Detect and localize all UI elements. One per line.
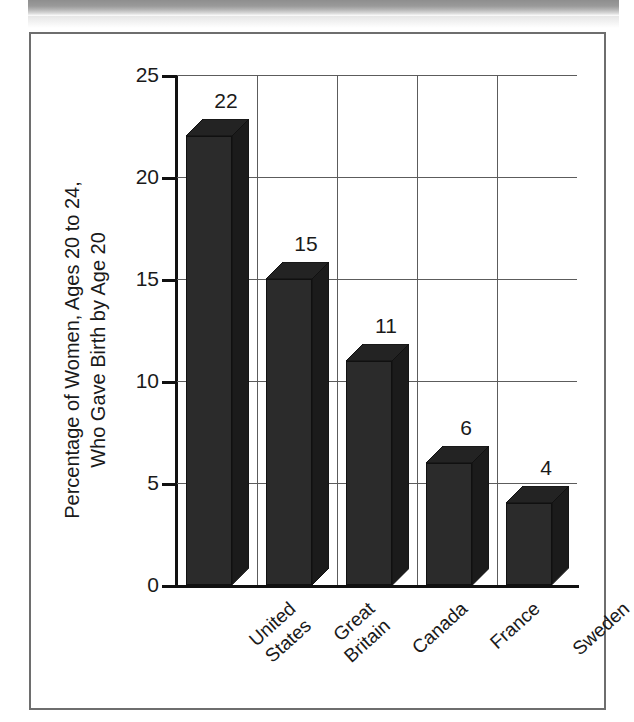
bar-3d-faces xyxy=(186,119,249,585)
bar-side-face xyxy=(472,446,489,585)
bar-side-face xyxy=(392,344,409,585)
x-axis-category-label: Sweden xyxy=(568,597,634,660)
gridline-vertical xyxy=(417,75,418,585)
bar xyxy=(186,119,249,585)
gridline-vertical xyxy=(337,75,338,585)
bar-side-face xyxy=(552,486,569,585)
y-axis-tick-label: 0 xyxy=(89,574,159,595)
bar-value-label: 11 xyxy=(363,315,409,336)
bar-3d-faces xyxy=(346,344,409,585)
y-axis-tick-label: 5 xyxy=(89,472,159,493)
y-axis-tick-labels: 0510152025 xyxy=(81,34,159,712)
figure-frame: Percentage of Women, Ages 20 to 24, Who … xyxy=(29,32,606,710)
bar-chart: Percentage of Women, Ages 20 to 24, Who … xyxy=(31,34,608,712)
scan-shadow-fade xyxy=(28,16,619,28)
bar-side-face xyxy=(312,262,329,585)
x-axis-line xyxy=(175,585,579,588)
bar xyxy=(506,486,569,585)
bar-value-label: 15 xyxy=(283,233,329,254)
gridline-vertical xyxy=(257,75,258,585)
scan-shadow-band xyxy=(28,0,619,16)
x-axis-category-label: Great Britain xyxy=(324,597,395,667)
bar-3d-faces xyxy=(506,486,569,585)
bar xyxy=(346,344,409,585)
bar-value-label: 6 xyxy=(443,417,489,438)
bar-3d-faces xyxy=(426,446,489,585)
gridline-horizontal xyxy=(177,75,577,76)
x-axis-category-label: Canada xyxy=(407,597,472,659)
gridline-vertical xyxy=(497,75,498,585)
bar-value-label: 22 xyxy=(203,90,249,111)
y-axis-tick-label: 25 xyxy=(89,64,159,85)
bar-3d-faces xyxy=(266,262,329,585)
y-axis-tick-label: 10 xyxy=(89,370,159,391)
bar xyxy=(266,262,329,585)
x-axis-category-label: United States xyxy=(244,597,316,668)
bar-value-label: 4 xyxy=(523,457,569,478)
bar-side-face xyxy=(232,119,249,585)
bar xyxy=(426,446,489,585)
x-axis-category-label: France xyxy=(485,597,544,654)
y-axis-tick-label: 15 xyxy=(89,268,159,289)
y-axis-tick-label: 20 xyxy=(89,166,159,187)
